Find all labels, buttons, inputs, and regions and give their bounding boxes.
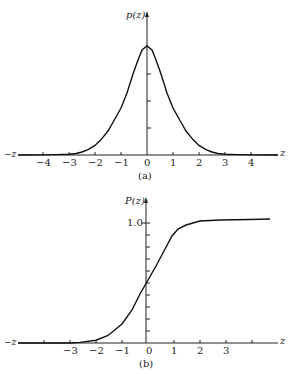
- charts-canvas: [0, 0, 291, 374]
- xtick-b: −1: [115, 346, 130, 356]
- panel-label-b: (b): [139, 359, 153, 369]
- xright-label-b: z: [280, 336, 285, 346]
- xtick-b: −3: [63, 346, 78, 356]
- ylabel-b: P(z): [125, 196, 145, 206]
- xtick-a: 2: [196, 158, 202, 168]
- xtick-a: −4: [36, 158, 51, 168]
- panel-label-a: (a): [138, 171, 152, 181]
- xtick-b: 3: [223, 346, 229, 356]
- panel-a-axes: [18, 11, 278, 155]
- cdf-curve: [18, 219, 270, 343]
- ylabel-a: p(z): [126, 10, 145, 20]
- xtick-a: 0: [144, 158, 150, 168]
- xtick-b: 2: [197, 346, 203, 356]
- xtick-a: 3: [222, 158, 228, 168]
- xtick-a: −3: [62, 158, 77, 168]
- xtick-a: −2: [88, 158, 103, 168]
- panel-b-axes: [18, 197, 278, 343]
- xtick-b: 1: [171, 346, 177, 356]
- xtick-a: 1: [170, 158, 176, 168]
- xtick-b: 0: [146, 346, 152, 356]
- xright-label-a: z: [280, 148, 285, 158]
- xtick-b: −2: [89, 346, 104, 356]
- xtick-a: 4: [248, 158, 254, 168]
- xleft-label-b: −z: [4, 337, 16, 347]
- xleft-label-a: −z: [4, 149, 16, 159]
- xtick-a: −1: [114, 158, 129, 168]
- ytick-b-1: 1.0: [127, 218, 143, 228]
